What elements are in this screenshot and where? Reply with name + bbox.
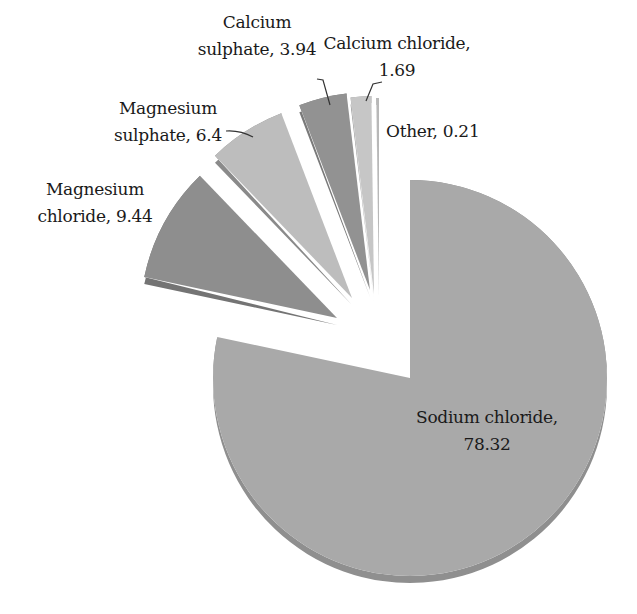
label-magnesium-sulphate: Magnesium sulphate, 6.4 — [108, 95, 228, 149]
label-calcium-chloride: Calcium chloride, 1.69 — [314, 30, 480, 84]
pie-chart — [0, 0, 637, 614]
pie-slices — [144, 93, 607, 583]
label-sodium-chloride: Sodium chloride, 78.32 — [402, 404, 572, 458]
slice-top-other — [376, 98, 379, 296]
slice-top-sodium-chloride — [213, 180, 607, 576]
label-other: Other, 0.21 — [386, 118, 486, 145]
slice-sodium-chloride — [213, 180, 607, 583]
label-magnesium-chloride: Magnesium chloride, 9.44 — [32, 176, 158, 230]
label-calcium-sulphate: Calcium sulphate, 3.94 — [196, 9, 318, 63]
slice-other — [376, 98, 379, 303]
